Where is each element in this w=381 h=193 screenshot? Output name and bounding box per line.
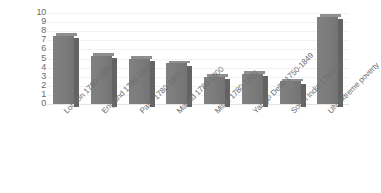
y-axis: 109876543210 bbox=[26, 8, 46, 109]
x-label-slot: Milan 1780-1800 bbox=[198, 105, 236, 193]
x-label-slot: South India 1750-90 bbox=[274, 105, 312, 193]
bar[interactable] bbox=[317, 17, 338, 104]
x-label-slot: London 1780-1800 bbox=[47, 105, 85, 193]
x-label-slot: Yangzi Delta 1750-1849 bbox=[236, 105, 274, 193]
x-label-slot: UN extreme poverty bbox=[311, 105, 349, 193]
y-tick-label: 0 bbox=[26, 99, 46, 108]
bar[interactable] bbox=[53, 36, 74, 104]
x-axis: London 1780-1800England 1780-1800Paris 1… bbox=[47, 105, 349, 193]
x-label-slot: Paris 1780-1800 bbox=[123, 105, 161, 193]
x-label-slot: Madrid 1780-1800 bbox=[160, 105, 198, 193]
x-label-slot: England 1780-1800 bbox=[85, 105, 123, 193]
